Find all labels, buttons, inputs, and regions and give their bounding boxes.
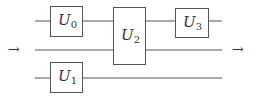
circuit-diagram [0, 0, 260, 97]
gate-u1-label: U1 [58, 69, 77, 86]
input-arrow-icon: → [8, 42, 20, 56]
gate-u2-label: U2 [121, 28, 140, 45]
output-arrow-icon: → [232, 42, 244, 56]
gate-u0-label: U0 [58, 13, 77, 30]
gate-u3-label: U3 [183, 15, 202, 32]
